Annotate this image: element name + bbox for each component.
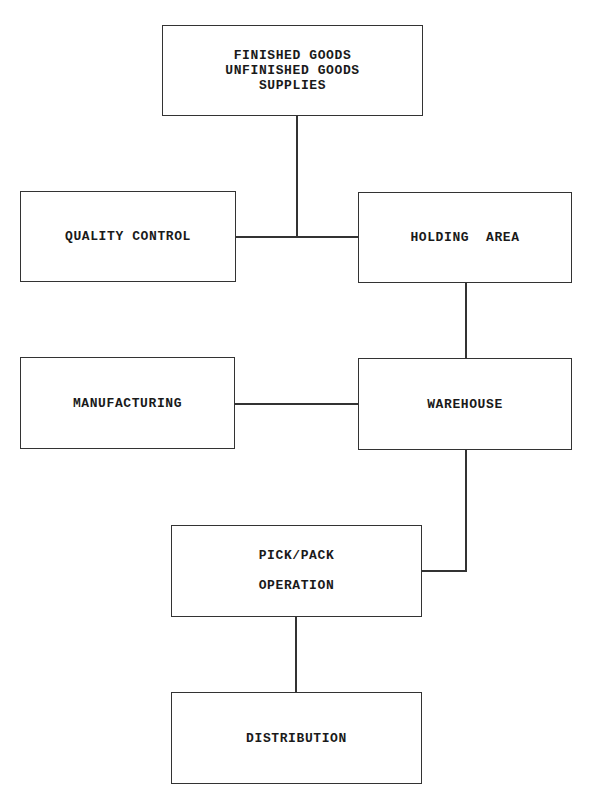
connector-qc-to-holding: [235, 236, 359, 238]
node-label-line: DISTRIBUTION: [246, 731, 347, 746]
connector-warehouse-down: [465, 449, 467, 571]
node-label-line: SUPPLIES: [259, 78, 326, 93]
node-label-line: WAREHOUSE: [427, 397, 503, 412]
warehouse-flow-diagram: FINISHED GOODS UNFINISHED GOODS SUPPLIES…: [0, 0, 593, 804]
connector-warehouse-to-pickpack: [421, 570, 467, 572]
node-label-line: OPERATION: [259, 571, 335, 601]
node-label-line: HOLDING AREA: [410, 230, 519, 245]
node-label-line: PICK/PACK: [259, 541, 335, 571]
node-label-line: FINISHED GOODS: [234, 48, 352, 63]
node-label-line: QUALITY CONTROL: [65, 229, 191, 244]
connector-holding-to-warehouse: [465, 282, 467, 358]
connector-pickpack-to-distribution: [295, 616, 297, 692]
node-quality-control: QUALITY CONTROL: [20, 191, 236, 282]
connector-manufacturing-to-warehouse: [234, 403, 359, 405]
node-holding-area: HOLDING AREA: [358, 192, 572, 283]
node-label-line: UNFINISHED GOODS: [225, 63, 359, 78]
node-pick-pack-operation: PICK/PACK OPERATION: [171, 525, 422, 617]
connector-inventory-to-junction: [296, 115, 298, 237]
node-manufacturing: MANUFACTURING: [20, 357, 235, 449]
node-label-line: MANUFACTURING: [73, 396, 182, 411]
node-distribution: DISTRIBUTION: [171, 692, 422, 784]
node-inventory-sources: FINISHED GOODS UNFINISHED GOODS SUPPLIES: [162, 25, 423, 116]
node-warehouse: WAREHOUSE: [358, 358, 572, 450]
